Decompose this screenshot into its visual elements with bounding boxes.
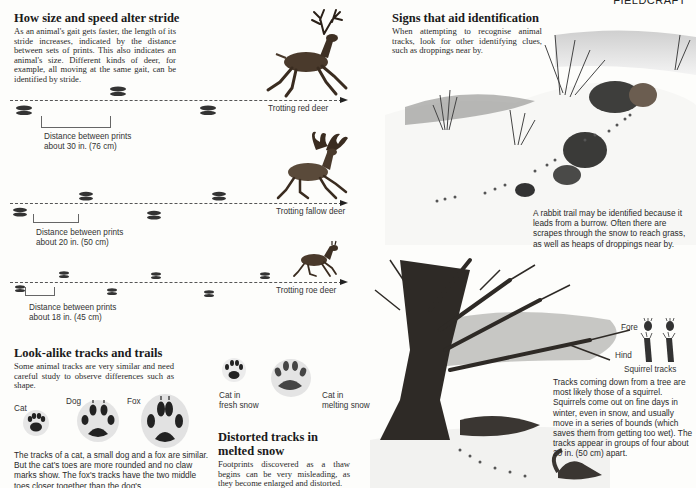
hoof-print-icon bbox=[150, 272, 164, 280]
hoof-print-icon bbox=[110, 86, 132, 96]
distance-bracket bbox=[25, 287, 55, 296]
cat-fresh-snow-label: Cat in fresh snow bbox=[219, 391, 259, 411]
lookalike-heading: Look-alike tracks and trails bbox=[14, 346, 162, 361]
snow-body: Footprints discovered as a thaw begins c… bbox=[218, 460, 350, 488]
distance-label: Distance between prints about 20 in. (50… bbox=[36, 228, 123, 248]
hoof-print-icon bbox=[12, 207, 34, 217]
squirrel-tracks-icon bbox=[640, 318, 690, 366]
hind-label: Hind bbox=[615, 351, 632, 360]
row-label: Trotting fallow deer bbox=[276, 207, 345, 216]
stride-heading: How size and speed alter stride bbox=[14, 11, 179, 26]
row-label: Trotting roe deer bbox=[276, 286, 336, 295]
lookalike-body: Some animal tracks are very similar and … bbox=[14, 362, 174, 391]
distance-label: Distance between prints about 30 in. (76… bbox=[44, 132, 131, 152]
fox-label: Fox bbox=[127, 397, 141, 406]
hoof-print-icon bbox=[146, 210, 168, 220]
track-line bbox=[10, 100, 342, 101]
fore-label: Fore bbox=[621, 323, 638, 332]
fox-paw-print-icon bbox=[140, 393, 190, 449]
track-line bbox=[10, 282, 342, 283]
distance-label: Distance between prints about 18 in. (45… bbox=[29, 303, 116, 323]
distance-bracket bbox=[33, 214, 79, 223]
hoof-print-icon bbox=[211, 191, 233, 201]
cat-paw-print-icon bbox=[22, 408, 50, 438]
dog-paw-print-icon bbox=[76, 398, 120, 444]
squirrel-tracks-label: Squirrel tracks bbox=[624, 365, 676, 374]
track-line bbox=[10, 203, 342, 204]
stride-body: As an animal's gait gets faster, the len… bbox=[14, 27, 176, 85]
distance-bracket bbox=[41, 116, 111, 128]
cat-melting-snow-print-icon bbox=[270, 358, 312, 398]
hoof-print-icon bbox=[203, 290, 217, 298]
hoof-print-icon bbox=[259, 272, 273, 280]
row-label: Trotting red deer bbox=[268, 104, 328, 113]
hoof-print-icon bbox=[78, 191, 100, 201]
roe-deer-illustration bbox=[292, 240, 344, 280]
running-head: FIELDCRAFT bbox=[613, 0, 686, 6]
rabbit-caption: A rabbit trail may be identified because… bbox=[533, 208, 693, 249]
hoof-print-icon bbox=[200, 105, 222, 115]
squirrel-caption: Tracks coming down from a tree are most … bbox=[553, 377, 695, 459]
red-deer-illustration bbox=[262, 8, 352, 100]
lookalike-caption: The tracks of a cat, a small dog and a f… bbox=[14, 450, 210, 488]
cat-melting-snow-label: Cat in melting snow bbox=[322, 391, 370, 411]
snow-heading: Distorted tracks in melted snow bbox=[218, 430, 318, 458]
hoof-print-icon bbox=[58, 271, 72, 279]
cat-fresh-snow-print-icon bbox=[221, 356, 247, 384]
fallow-deer-illustration bbox=[272, 128, 352, 202]
hoof-print-icon bbox=[16, 105, 38, 115]
hoof-print-icon bbox=[106, 288, 120, 296]
